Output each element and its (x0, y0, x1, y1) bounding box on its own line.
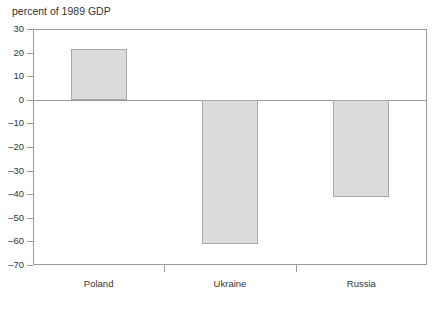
bar-ukraine (202, 100, 258, 244)
y-axis-tick (27, 76, 33, 77)
y-axis-tick-label: 10 (0, 71, 24, 81)
x-axis-label-ukraine: Ukraine (164, 278, 295, 289)
y-axis-tick-label-text: 30 (0, 24, 24, 34)
x-axis-label-russia: Russia (296, 278, 427, 289)
y-axis-tick-label-text: –10 (0, 118, 24, 128)
y-axis-tick-label-text: –70 (0, 260, 24, 270)
y-axis-tick-label: –20 (0, 142, 24, 152)
y-axis-tick (27, 171, 33, 172)
x-axis-tick (296, 265, 297, 272)
y-axis-tick-label: –40 (0, 189, 24, 199)
y-axis-tick-label-text: –30 (0, 166, 24, 176)
y-axis-tick (27, 53, 33, 54)
y-axis-tick-label-text: –40 (0, 189, 24, 199)
y-axis-tick (27, 241, 33, 242)
y-axis-tick-label: –30 (0, 166, 24, 176)
y-axis-tick-label-text: 0 (0, 95, 24, 105)
y-axis-tick (27, 123, 33, 124)
x-axis-tick (164, 265, 165, 272)
y-axis-tick (27, 29, 33, 30)
y-axis-tick-label: –60 (0, 236, 24, 246)
y-axis-tick-label-text: –20 (0, 142, 24, 152)
y-axis-tick-label: 0 (0, 95, 24, 105)
bar-russia (333, 100, 389, 197)
bar-poland (71, 49, 127, 100)
y-axis-tick-label: –70 (0, 260, 24, 270)
y-axis-tick-label: 30 (0, 24, 24, 34)
y-axis-tick-label-text: –50 (0, 213, 24, 223)
y-axis-tick (27, 147, 33, 148)
x-axis-label-poland: Poland (33, 278, 164, 289)
y-axis-tick-label-text: 10 (0, 71, 24, 81)
y-axis-tick-label: 20 (0, 48, 24, 58)
y-axis-tick-label-text: –60 (0, 236, 24, 246)
y-axis-tick-label-text: 20 (0, 48, 24, 58)
y-axis-tick-label: –50 (0, 213, 24, 223)
chart-axis-title: percent of 1989 GDP (12, 5, 111, 18)
y-axis-tick (27, 194, 33, 195)
y-axis-tick (27, 218, 33, 219)
bar-chart: percent of 1989 GDP 3020100–10–20–30–40–… (0, 0, 437, 309)
y-axis-tick (27, 265, 33, 266)
y-axis-tick-label: –10 (0, 118, 24, 128)
